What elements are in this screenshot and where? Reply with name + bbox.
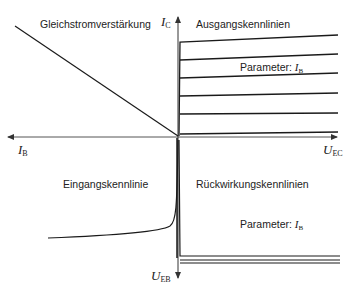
- quadrant-title-input: Eingangskennlinie: [63, 178, 148, 190]
- feedback-curves: [179, 140, 340, 263]
- output-parameter-label: Parameter: IB: [240, 61, 303, 75]
- axis-subscript: B: [22, 149, 27, 158]
- axis-symbol: U: [323, 142, 332, 157]
- axis-label-ueb: UEB: [151, 268, 171, 284]
- axis-subscript: EB: [160, 275, 170, 284]
- output-curves: [179, 35, 338, 136]
- parameter-text: Parameter:: [240, 61, 292, 73]
- current-gain-line: [15, 26, 178, 136]
- axis-symbol: U: [151, 268, 160, 283]
- parameter-text: Parameter:: [240, 218, 292, 230]
- axis-label-ib: IB: [18, 142, 28, 158]
- quadrant-title-current-gain: Gleichstromverstärkung: [40, 18, 151, 30]
- axis-label-ic: IC: [161, 14, 171, 30]
- transistor-characteristics-diagram: Gleichstromverstärkung Ausgangskennlinie…: [0, 0, 359, 296]
- parameter-symbol: IB: [295, 218, 303, 230]
- quadrant-title-feedback: Rückwirkungskennlinien: [196, 178, 309, 190]
- diagram-graphics: [0, 0, 359, 296]
- axis-subscript: C: [165, 21, 170, 30]
- parameter-symbol-sub: B: [299, 224, 304, 232]
- parameter-symbol: IB: [295, 61, 303, 73]
- axis-subscript: EC: [332, 149, 342, 158]
- quadrant-title-output: Ausgangskennlinien: [196, 18, 290, 30]
- axis-label-uec: UEC: [323, 142, 343, 158]
- feedback-parameter-label: Parameter: IB: [240, 218, 303, 232]
- parameter-symbol-sub: B: [299, 67, 304, 75]
